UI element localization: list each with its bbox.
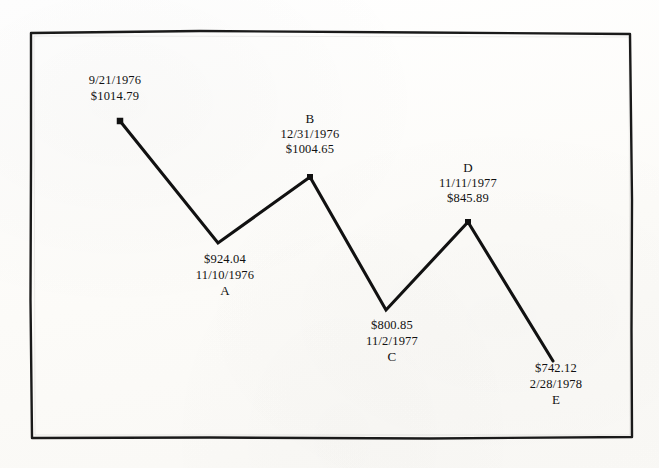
label-d-date: 11/11/1977 [439, 176, 497, 192]
label-point-e: $742.12 2/28/1978 E [530, 361, 583, 408]
label-a-price: $924.04 [196, 252, 254, 268]
label-b-letter: B [281, 111, 340, 127]
data-point-marker-start [117, 118, 124, 125]
chart-page: 9/21/1976 $1014.79 $924.04 11/10/1976 A … [0, 0, 659, 468]
label-point-d: D 11/11/1977 $845.89 [439, 160, 497, 207]
label-c-price: $800.85 [366, 318, 418, 334]
label-a-letter: A [196, 283, 254, 299]
label-e-price: $742.12 [530, 361, 583, 377]
label-point-c: $800.85 11/2/1977 C [366, 318, 418, 365]
label-b-date: 12/31/1976 [281, 127, 340, 143]
label-point-b: B 12/31/1976 $1004.65 [281, 111, 340, 158]
label-c-date: 11/2/1977 [366, 334, 418, 350]
label-start-point: 9/21/1976 $1014.79 [89, 73, 142, 104]
label-a-date: 11/10/1976 [196, 268, 254, 284]
label-b-price: $1004.65 [281, 142, 340, 158]
data-point-marker-d [465, 219, 471, 225]
label-e-letter: E [530, 392, 583, 408]
label-c-letter: C [366, 349, 418, 365]
label-start-price: $1014.79 [89, 89, 142, 105]
label-d-price: $845.89 [439, 191, 497, 207]
label-start-date: 9/21/1976 [89, 73, 142, 89]
data-point-marker-b [307, 174, 313, 180]
label-e-date: 2/28/1978 [530, 377, 583, 393]
label-d-letter: D [439, 160, 497, 176]
label-point-a: $924.04 11/10/1976 A [196, 252, 254, 299]
